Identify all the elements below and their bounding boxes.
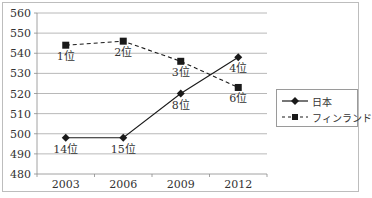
rank-label: 2位 <box>114 45 132 59</box>
y-tick-label: 540 <box>10 47 31 60</box>
y-tick-label: 480 <box>10 168 31 181</box>
square-marker <box>235 84 242 91</box>
y-tick-label: 530 <box>10 67 31 80</box>
legend-item-finland: フィンランド <box>281 110 372 124</box>
y-axis: 480490500510520530540550560 <box>10 7 37 181</box>
series-line <box>66 41 239 87</box>
rank-label: 14位 <box>53 142 78 156</box>
series-group: 14位15位8位4位1位2位3位6位 <box>53 38 247 156</box>
series-line <box>66 57 239 137</box>
x-tick-label: 2012 <box>224 178 252 191</box>
x-tick-label: 2009 <box>167 178 195 191</box>
y-tick-label: 510 <box>10 108 31 121</box>
diamond-marker <box>62 134 70 142</box>
x-tick-label: 2006 <box>109 178 137 191</box>
rank-label: 4位 <box>229 61 247 75</box>
y-tick-label: 560 <box>10 7 31 20</box>
rank-label: 8位 <box>172 98 190 112</box>
y-tick-label: 490 <box>10 148 31 161</box>
y-tick-label: 550 <box>10 27 31 40</box>
x-tick-label: 2003 <box>52 178 80 191</box>
y-tick-label: 500 <box>10 128 31 141</box>
diamond-marker <box>234 53 242 61</box>
rank-label: 6位 <box>229 91 247 105</box>
rank-label: 15位 <box>111 142 136 156</box>
square-marker <box>62 42 69 49</box>
rank-label: 1位 <box>57 49 75 63</box>
legend-label: 日本 <box>312 94 332 109</box>
x-axis: 2003200620092012 <box>37 174 267 191</box>
y-tick-label: 520 <box>10 88 31 101</box>
legend-item-japan: 日本 <box>281 94 332 108</box>
rank-label: 3位 <box>172 65 190 79</box>
legend-label: フィンランド <box>312 110 372 125</box>
dashed-square-line-icon <box>281 112 309 122</box>
square-marker <box>177 58 184 65</box>
legend: 日本 フィンランド <box>276 89 358 127</box>
solid-diamond-line-icon <box>281 96 309 106</box>
square-marker <box>120 38 127 45</box>
gridlines <box>37 13 267 154</box>
